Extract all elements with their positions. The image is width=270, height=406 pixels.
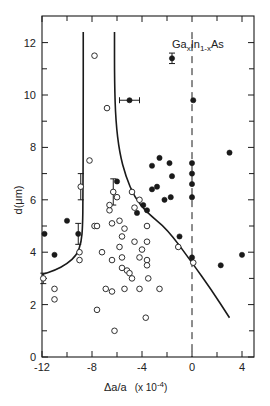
open-data-point [137,286,143,292]
filled-data-point [239,252,244,257]
open-data-point [112,328,118,334]
y-tick-label: 10 [24,89,36,101]
filled-data-point [169,174,174,179]
open-data-point [145,276,151,282]
open-data-point [94,307,100,313]
open-data-point [132,239,138,245]
chart: -12-8-404024681012 GaxIn1-xAs Δa/a(x 10-… [0,0,270,406]
filled-data-point [141,202,146,207]
open-data-point [127,270,133,276]
x-tick-label: -12 [34,361,50,373]
open-data-point [109,257,115,263]
open-data-point [77,249,83,255]
y-axis-title: d(μm) [12,186,24,215]
open-data-point [157,286,163,292]
scatter-plot: -12-8-404024681012 GaxIn1-xAs Δa/a(x 10-… [0,0,270,406]
filled-data-point [76,231,81,236]
filled-data-point [154,184,159,189]
axis-ticks: -12-8-404024681012 [24,16,254,373]
open-data-point [109,289,115,295]
open-data-point [52,286,58,292]
open-data-point [144,257,150,263]
y-tick-label: 2 [30,299,36,311]
open-data-point [78,184,84,190]
open-data-point [87,158,93,164]
y-tick-label: 6 [30,194,36,206]
filled-data-point [149,163,154,168]
open-data-point [119,234,125,240]
filled-data-point [114,179,119,184]
filled-data-point [218,263,223,268]
open-data-point [137,197,143,203]
open-data-point [144,263,150,269]
open-data-point [119,255,125,261]
boundary-curves [42,32,230,318]
filled-data-point [189,161,194,166]
x-tick-label: -4 [137,361,147,373]
filled-data-point [64,218,69,223]
open-data-point [109,221,115,227]
left-boundary-curve [42,32,83,274]
filled-data-point [191,98,196,103]
open-data-point [139,247,145,253]
open-data-point [92,53,98,59]
x-tick-label: 4 [239,361,245,373]
open-data-point [110,189,116,195]
filled-data-point [52,252,57,257]
open-data-point [77,257,83,263]
filled-data-point [144,208,149,213]
x-tick-label: -8 [87,361,97,373]
open-data-point [52,297,58,303]
filled-data-point [134,210,139,215]
filled-data-point [189,181,194,186]
open-data-point [107,202,113,208]
filled-data-point [189,171,194,176]
error-bars [40,53,175,284]
filled-data-point [149,187,154,192]
open-data-point [114,194,120,200]
y-tick-label: 8 [30,141,36,153]
filled-data-point [177,234,182,239]
open-data-point [94,223,100,229]
filled-data-point [42,231,47,236]
open-data-point [122,226,128,232]
filled-data-point [127,98,132,103]
open-data-point [190,260,196,266]
filled-data-point [167,161,172,166]
y-tick-label: 12 [24,37,36,49]
data-points [40,53,244,334]
open-data-point [117,244,123,250]
open-data-point [40,276,46,282]
open-data-point [143,315,149,321]
open-data-point [175,244,181,250]
y-tick-label: 0 [30,351,36,363]
filled-data-point [157,155,162,160]
open-data-point [99,249,105,255]
filled-data-point [168,195,173,200]
open-data-point [132,205,138,211]
filled-data-point [189,255,194,260]
open-data-point [107,207,113,213]
x-axis-title: Δa/a(x 10-4) [104,380,167,393]
x-tick-label: 0 [189,361,195,373]
open-data-point [129,189,135,195]
open-data-point [117,218,123,224]
open-data-point [144,223,150,229]
filled-data-point [162,197,167,202]
open-data-point [103,286,109,292]
open-data-point [144,239,150,245]
filled-data-point [227,150,232,155]
filled-data-point [169,56,174,61]
material-annotation: GaxIn1-xAs [172,38,224,53]
open-data-point [104,105,110,111]
open-data-point [137,255,143,261]
y-tick-label: 4 [30,246,36,258]
open-data-point [122,286,128,292]
open-data-point [129,276,135,282]
filled-data-point [189,195,194,200]
